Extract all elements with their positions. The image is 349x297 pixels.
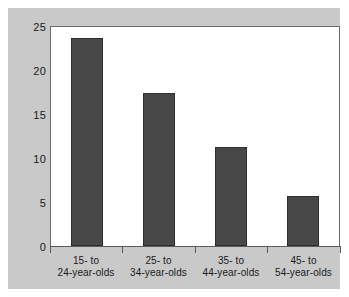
plot-area xyxy=(51,27,339,246)
x-category-label-line1: 45- to xyxy=(267,255,340,267)
y-tick-label-5: 5 xyxy=(16,198,46,209)
x-category-label-2: 35- to 44-year-olds xyxy=(195,255,267,279)
y-tick-label-text: 5 xyxy=(20,198,46,209)
y-tick-label-0: 0 xyxy=(16,242,46,253)
y-tick-label-20: 20 xyxy=(16,66,46,77)
y-tick-label-15: 15 xyxy=(16,110,46,121)
y-tick-label-25: 25 xyxy=(16,22,46,33)
x-category-label-line2: 54-year-olds xyxy=(267,267,340,279)
x-axis-tick-3 xyxy=(267,247,268,253)
x-axis-tick-1 xyxy=(122,247,123,253)
x-category-label-line2: 24-year-olds xyxy=(50,267,122,279)
y-tick-label-text: 10 xyxy=(20,154,46,165)
x-category-label-0: 15- to 24-year-olds xyxy=(50,255,122,279)
x-category-label-1: 25- to 34-year-olds xyxy=(122,255,195,279)
y-tick-label-text: 25 xyxy=(20,22,46,33)
x-category-label-line1: 25- to xyxy=(122,255,195,267)
x-category-label-line2: 34-year-olds xyxy=(122,267,195,279)
bar-45-to-54[interactable] xyxy=(287,196,319,246)
bar-15-to-24[interactable] xyxy=(71,38,103,246)
bar-35-to-44[interactable] xyxy=(215,147,247,246)
figure: 25 20 15 10 5 0 xyxy=(0,0,349,297)
plot-frame xyxy=(50,26,340,247)
y-tick-label-text: 20 xyxy=(20,66,46,77)
y-tick-label-text: 0 xyxy=(20,242,46,253)
y-tick-label-text: 15 xyxy=(20,110,46,121)
x-axis-tick-4 xyxy=(340,247,341,253)
x-axis-tick-0 xyxy=(50,247,51,253)
y-tick-label-10: 10 xyxy=(16,154,46,165)
chart-panel: 25 20 15 10 5 0 xyxy=(8,8,340,289)
bar-25-to-34[interactable] xyxy=(143,93,175,246)
x-category-label-3: 45- to 54-year-olds xyxy=(267,255,340,279)
x-category-label-line1: 35- to xyxy=(195,255,267,267)
x-category-label-line1: 15- to xyxy=(50,255,122,267)
x-category-label-line2: 44-year-olds xyxy=(195,267,267,279)
x-axis-tick-2 xyxy=(195,247,196,253)
